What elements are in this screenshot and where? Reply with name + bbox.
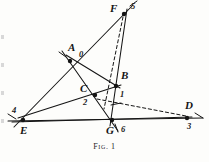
line-E-B-to-D [12,117,192,122]
vertex-dot-b [114,84,118,88]
vertex-dot-g [110,118,114,122]
geometry-diagram [0,0,209,162]
vertex-dot-f [122,12,126,16]
point-label-f: F [110,3,117,14]
figure-container: A0B1C2D3E4F5G6 Fig. 1 [0,0,209,162]
point-number-g: 6 [121,125,125,134]
dashed-line-group [97,17,186,116]
tick-B-right-short [111,103,121,105]
point-label-g: G [106,125,114,136]
page-edge-mark-1 [1,35,4,39]
figure-caption: Fig. 1 [0,142,209,151]
point-label-e: E [20,125,27,136]
point-number-e: 4 [12,106,16,115]
point-number-d: 3 [187,122,191,131]
point-number-c: 2 [83,98,87,107]
point-number-a: 0 [79,50,83,59]
tick-D-right [195,113,203,118]
point-label-c: C [80,83,87,94]
point-label-b: B [121,70,128,81]
point-number-f: 5 [131,2,135,11]
vertex-dot-c [93,93,97,97]
point-label-d: D [185,100,193,111]
solid-line-group [8,5,203,131]
point-number-b: 1 [120,90,124,99]
dashed-C-to-D [97,99,186,116]
vertex-dot-d [185,116,189,120]
point-label-a: A [68,42,75,53]
vertex-dot-a [68,59,72,63]
page-edge-mark-3 [1,91,4,95]
page-edge-mark-4 [1,119,4,123]
line-E-F-through-A [14,5,133,127]
vertex-dot-e [21,118,25,122]
page-edge-mark-2 [1,63,4,67]
